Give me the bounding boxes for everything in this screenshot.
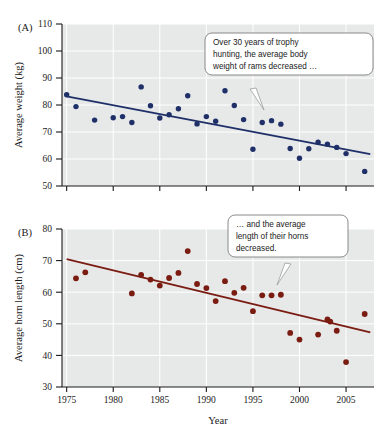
y-tick-label: 40 [43,351,53,361]
data-point [278,121,283,126]
data-point [343,151,348,156]
data-point [213,298,219,304]
panel-b-label: (B) [18,227,33,239]
data-point [287,330,293,336]
panel-a: 5060708090100110 (A) Average weight (kg)… [13,19,374,191]
data-point [297,155,302,160]
data-point [111,115,116,120]
data-point [185,93,190,98]
scientific-figure: 5060708090100110 (A) Average weight (kg)… [0,0,382,433]
data-point [269,292,275,298]
y-tick-label: 110 [38,19,52,29]
x-tick-label: 2000 [290,395,309,405]
data-point [269,118,274,123]
y-tick-label: 70 [43,127,53,137]
data-point [157,115,162,120]
data-point [278,292,284,298]
panel-b-y-axis-title: Average horn length (cm) [13,254,25,362]
data-point [120,114,125,119]
panel-a-label: (A) [18,22,33,34]
y-tick-label: 90 [43,73,53,83]
x-tick-label: 2005 [337,395,356,405]
data-point [203,285,209,291]
y-tick-label: 80 [43,100,53,110]
data-point [185,248,191,254]
y-tick-label: 100 [38,46,53,56]
y-tick-label: 50 [43,181,53,191]
data-point [232,103,237,108]
y-tick-label: 30 [43,382,53,392]
data-point [222,88,227,93]
panel-b-callout-line-1: … and the average [236,220,306,229]
data-point [250,308,256,314]
y-tick-label: 70 [43,256,53,266]
data-point [194,281,200,287]
x-tick-label: 1980 [104,395,123,405]
data-point [306,146,311,151]
data-point [73,104,78,109]
data-point [222,278,228,284]
data-point [287,146,292,151]
data-point [129,120,134,125]
data-point [334,328,340,334]
data-point [73,275,79,281]
data-point [92,117,97,122]
data-point [362,169,367,174]
data-point [241,285,247,291]
data-point [176,270,182,276]
y-tick-label: 60 [43,288,53,298]
panel-a-y-axis-title: Average weight (kg) [13,61,25,148]
data-point [176,106,181,111]
data-point [148,103,153,108]
data-point [157,283,163,289]
y-tick-label: 50 [43,319,53,329]
data-point [343,359,349,365]
panel-a-callout-line-1: Over 30 years of trophy [213,38,299,47]
x-tick-label: 1990 [197,395,216,405]
x-tick-label: 1975 [57,395,76,405]
data-point [166,275,172,281]
data-point [213,119,218,124]
data-point [129,291,135,297]
data-point [82,269,88,275]
data-point [241,117,246,122]
data-point [260,120,265,125]
panel-b-callout-line-3: decreased. [236,244,277,253]
data-point [297,337,303,343]
x-axis-title: Year [208,415,228,426]
data-point [362,311,368,317]
panel-b-callout-line-2: length of their horns [236,232,308,241]
data-point [138,84,143,89]
panel-a-callout-line-3: weight of rams decreased … [212,62,317,71]
data-point [250,147,255,152]
x-tick-label: 1995 [243,395,262,405]
x-tick-label: 1985 [150,395,169,405]
data-point [259,292,265,298]
data-point [315,332,321,338]
y-tick-label: 80 [43,224,53,234]
y-tick-label: 60 [43,154,53,164]
data-point [231,290,237,296]
panel-a-callout-line-2: hunting, the average body [213,50,309,59]
data-point [204,114,209,119]
